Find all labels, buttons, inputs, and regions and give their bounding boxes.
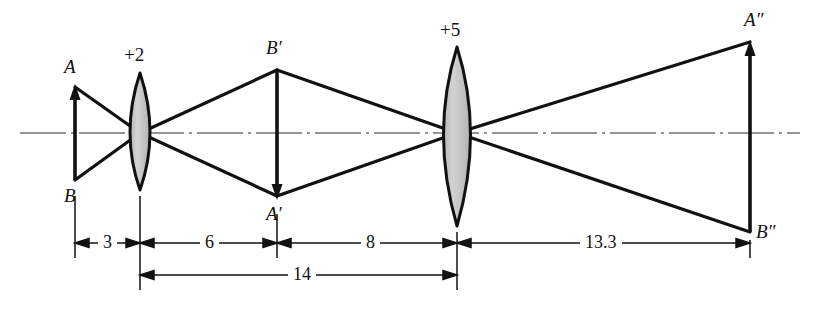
label-a-prime: A′ bbox=[266, 204, 282, 223]
dimension-label-3: 3 bbox=[98, 233, 117, 251]
label-lens1-power: +2 bbox=[124, 45, 144, 64]
dimension-label-14: 14 bbox=[288, 265, 316, 283]
label-b-prime: B′ bbox=[266, 38, 282, 57]
label-a-double-prime: A″ bbox=[744, 10, 764, 29]
dimension-label-8: 8 bbox=[361, 233, 380, 251]
dimension-label-13-3: 13.3 bbox=[580, 233, 622, 251]
label-a: A bbox=[64, 57, 76, 76]
image-arrow-a-prime-b-prime bbox=[272, 70, 283, 200]
label-b: B bbox=[64, 186, 76, 205]
optics-figure-canvas bbox=[0, 0, 818, 310]
lens-plus-5 bbox=[444, 47, 471, 226]
object-arrow-ab bbox=[70, 84, 81, 180]
ray-bundle-lens2 bbox=[277, 42, 750, 232]
label-b-double-prime: B″ bbox=[756, 222, 776, 241]
image-arrow-a-double-prime-b-double-prime bbox=[745, 40, 756, 232]
lens-plus-2 bbox=[130, 73, 150, 190]
label-lens2-power: +5 bbox=[440, 20, 460, 39]
dimension-row-primary bbox=[75, 239, 750, 248]
dimension-label-6: 6 bbox=[200, 233, 219, 251]
optics-diagram: A B +2 B′ A′ +5 A″ B″ 3 6 8 13.3 14 bbox=[0, 0, 818, 310]
